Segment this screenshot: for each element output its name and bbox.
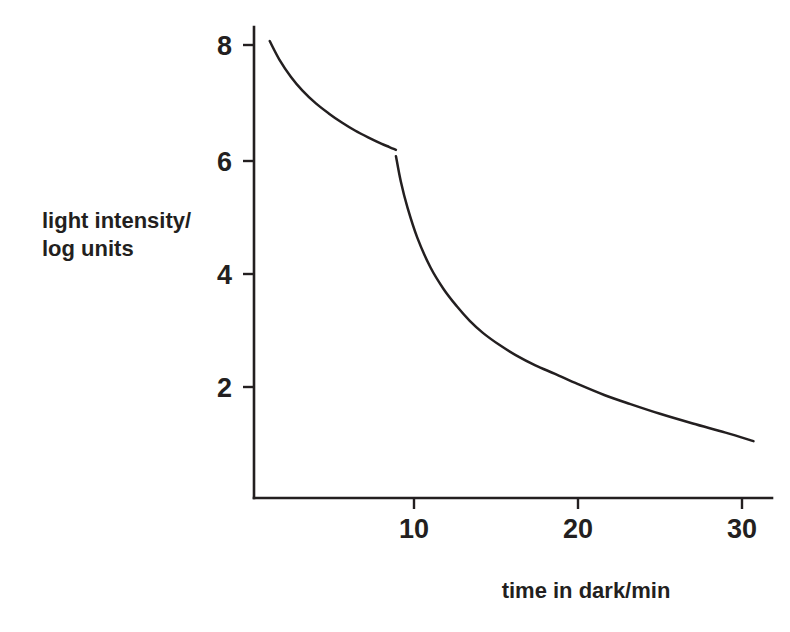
x-tick-label-10: 10 <box>399 514 429 544</box>
y-tick-labels: 8 6 4 2 <box>217 31 232 403</box>
x-tick-marks <box>414 498 742 509</box>
y-tick-label-6: 6 <box>217 147 232 177</box>
y-axis-title-line1: light intensity/ <box>42 208 191 233</box>
y-tick-label-4: 4 <box>217 260 232 290</box>
rod-branch-curve <box>396 156 754 441</box>
y-tick-label-2: 2 <box>217 373 232 403</box>
cone-branch-curve <box>270 41 396 150</box>
x-tick-label-30: 30 <box>727 514 757 544</box>
y-axis-title-line2: log units <box>42 236 134 261</box>
x-tick-label-20: 20 <box>563 514 593 544</box>
y-axis-title: light intensity/ log units <box>42 208 191 261</box>
x-axis-title: time in dark/min <box>502 578 671 603</box>
y-tick-label-8: 8 <box>217 31 232 61</box>
y-tick-marks <box>243 45 254 387</box>
x-tick-labels: 10 20 30 <box>399 514 757 544</box>
chart-figure: 8 6 4 2 10 20 30 light intensity/ log un… <box>0 0 790 632</box>
dark-adaptation-chart: 8 6 4 2 10 20 30 light intensity/ log un… <box>0 0 790 632</box>
